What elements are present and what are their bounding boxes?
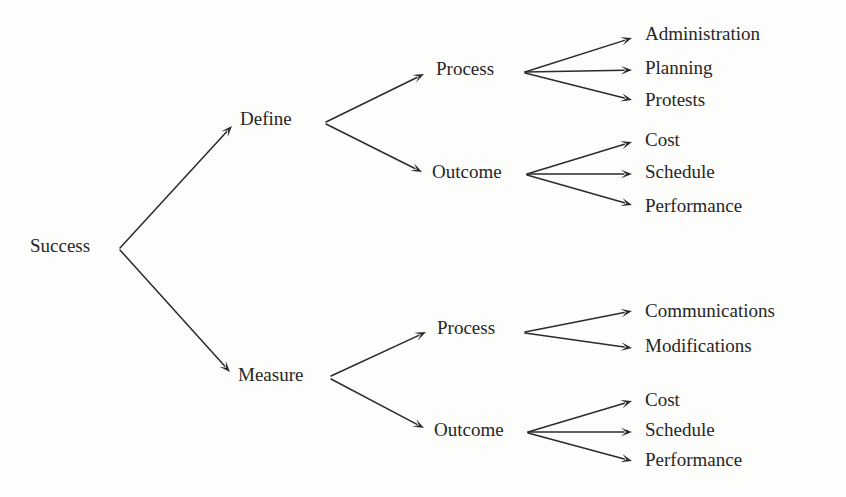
edge-line	[326, 77, 417, 122]
edge-line	[527, 175, 624, 203]
tree-diagram: Success Define Measure Process Outcome P…	[0, 0, 846, 497]
edge-outcome-to-schedule-1	[527, 170, 632, 178]
edge-define-to-process	[326, 74, 424, 122]
edge-process-to-protests	[525, 73, 632, 101]
leaf-performance-measure: Performance	[645, 449, 742, 470]
edge-line	[525, 70, 624, 72]
node-labels-group: Success Define Measure Process Outcome P…	[30, 23, 775, 470]
edge-process-to-communications	[525, 309, 632, 332]
leaf-performance-define: Performance	[645, 195, 742, 216]
edge-line	[120, 132, 227, 248]
edge-outcome-to-cost-2	[528, 400, 632, 432]
leaf-cost-define: Cost	[645, 129, 681, 150]
leaf-modifications: Modifications	[645, 335, 752, 356]
node-measure: Measure	[238, 364, 303, 385]
edges-group	[120, 37, 632, 462]
node-define-outcome: Outcome	[432, 161, 502, 182]
edge-process-to-administration	[525, 37, 632, 72]
edge-line	[528, 403, 624, 432]
node-measure-process: Process	[437, 317, 495, 338]
tree-diagram-canvas: Success Define Measure Process Outcome P…	[0, 0, 846, 497]
node-define: Define	[240, 108, 292, 129]
leaf-cost-measure: Cost	[645, 389, 681, 410]
edge-outcome-to-cost-1	[527, 141, 632, 174]
edge-line	[326, 124, 415, 168]
edge-success-to-define	[120, 126, 232, 248]
edge-line	[331, 335, 419, 376]
leaf-protests: Protests	[645, 89, 705, 110]
edge-line	[525, 333, 624, 347]
leaf-planning: Planning	[645, 57, 713, 78]
edge-line	[525, 40, 624, 72]
edge-define-to-outcome	[326, 124, 422, 172]
leaf-communications: Communications	[645, 300, 775, 321]
edge-outcome-to-performance-2	[528, 433, 632, 462]
leaf-schedule-measure: Schedule	[645, 419, 715, 440]
edge-outcome-to-performance-1	[527, 175, 632, 206]
edge-line	[525, 73, 624, 98]
edge-line	[120, 250, 225, 366]
node-measure-outcome: Outcome	[434, 419, 504, 440]
edge-measure-to-outcome	[331, 379, 424, 428]
leaf-schedule-define: Schedule	[645, 161, 715, 182]
edge-outcome-to-schedule-2	[528, 428, 632, 436]
edge-line	[528, 433, 624, 459]
edge-line	[525, 313, 624, 332]
leaf-administration: Administration	[645, 23, 761, 44]
edge-line	[331, 379, 417, 424]
node-define-process: Process	[436, 58, 494, 79]
edge-process-to-modifications	[525, 333, 632, 351]
edge-success-to-measure	[120, 250, 230, 372]
node-success: Success	[30, 235, 90, 256]
edge-measure-to-process	[331, 332, 426, 376]
edge-line	[527, 144, 624, 174]
